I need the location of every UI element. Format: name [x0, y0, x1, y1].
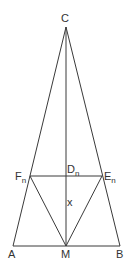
label-A: A	[8, 248, 16, 260]
label-M: M	[61, 248, 70, 260]
label-B: B	[116, 248, 123, 260]
label-C: C	[61, 12, 69, 24]
triangle-diagram: C Fn En Dn x A M B	[0, 0, 130, 270]
label-x: x	[67, 196, 73, 208]
segment-FnM	[30, 176, 66, 246]
segment-CB	[66, 27, 120, 246]
segment-EnM	[66, 176, 102, 246]
segment-CA	[13, 27, 66, 246]
label-Fn: Fn	[15, 170, 26, 185]
label-En: En	[104, 170, 116, 185]
